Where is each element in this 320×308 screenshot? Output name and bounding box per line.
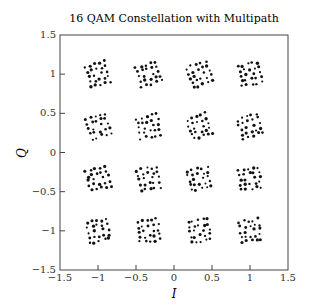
- symbol-point: [205, 239, 207, 241]
- symbol-point: [100, 186, 103, 189]
- symbol-point: [207, 81, 209, 83]
- symbol-point: [255, 83, 257, 85]
- symbol-point: [207, 166, 209, 168]
- symbol-point: [106, 134, 108, 136]
- symbol-point: [195, 63, 198, 66]
- x-axis: −1.5−1−0.500.511.5: [48, 265, 296, 283]
- symbol-point: [145, 67, 148, 70]
- symbol-point: [100, 71, 103, 74]
- symbol-point: [104, 128, 107, 131]
- symbol-point: [239, 70, 242, 73]
- symbol-point: [237, 120, 239, 122]
- symbol-point: [192, 81, 195, 84]
- symbol-point: [252, 124, 255, 127]
- symbol-point: [247, 136, 249, 138]
- symbol-point: [205, 129, 208, 132]
- symbol-point: [137, 221, 140, 224]
- symbol-point: [250, 61, 253, 64]
- symbol-point: [211, 79, 214, 82]
- symbol-point: [256, 116, 259, 119]
- symbol-point: [152, 73, 154, 75]
- symbol-point: [149, 61, 152, 64]
- symbol-point: [87, 185, 90, 188]
- symbol-point: [104, 81, 107, 84]
- symbol-point: [95, 219, 98, 222]
- y-tick-label: −1.5: [32, 264, 56, 275]
- symbol-point: [104, 238, 106, 240]
- symbol-point: [109, 180, 112, 183]
- symbol-point: [259, 127, 262, 130]
- symbol-point: [155, 80, 158, 83]
- symbol-point: [196, 79, 199, 82]
- symbol-point: [153, 187, 156, 190]
- symbol-point: [190, 168, 193, 171]
- x-tick-label: −1: [91, 272, 106, 283]
- symbol-point: [194, 225, 197, 228]
- symbol-point: [244, 79, 246, 81]
- symbol-point: [200, 168, 203, 171]
- symbol-point: [145, 65, 147, 67]
- symbol-point: [90, 169, 93, 172]
- symbol-point: [99, 167, 102, 170]
- symbol-point: [153, 240, 156, 243]
- symbol-point: [143, 177, 145, 179]
- symbol-point: [150, 119, 153, 122]
- symbol-point: [197, 224, 199, 226]
- symbol-point: [147, 225, 150, 228]
- symbol-point: [145, 240, 148, 243]
- symbol-point: [202, 134, 204, 136]
- symbol-point: [205, 217, 208, 220]
- symbol-point: [90, 116, 93, 119]
- symbol-point: [186, 170, 189, 173]
- symbol-point: [97, 240, 99, 242]
- symbol-point: [190, 117, 193, 120]
- symbol-point: [102, 176, 105, 179]
- symbol-point: [194, 131, 197, 134]
- symbol-point: [247, 62, 249, 64]
- symbol-point: [247, 220, 249, 222]
- symbol-point: [241, 134, 244, 137]
- symbol-point: [145, 121, 148, 124]
- symbol-point: [201, 130, 204, 133]
- scatter-points: [83, 59, 264, 245]
- symbol-point: [157, 128, 160, 131]
- symbol-point: [93, 62, 96, 65]
- symbol-point: [252, 72, 255, 75]
- symbol-point: [258, 227, 261, 230]
- symbol-point: [135, 119, 137, 121]
- symbol-point: [255, 185, 258, 188]
- symbol-point: [243, 178, 246, 181]
- symbol-point: [191, 71, 194, 74]
- symbol-point: [160, 187, 162, 189]
- symbol-point: [93, 236, 95, 238]
- symbol-point: [149, 234, 152, 237]
- symbol-point: [143, 78, 146, 81]
- symbol-point: [200, 241, 202, 243]
- symbol-point: [105, 218, 107, 220]
- symbol-point: [209, 70, 211, 72]
- symbol-point: [150, 218, 153, 221]
- symbol-point: [243, 231, 246, 234]
- symbol-point: [246, 115, 248, 117]
- symbol-point: [254, 68, 256, 70]
- symbol-point: [107, 122, 109, 124]
- symbol-point: [193, 230, 195, 232]
- symbol-point: [99, 84, 101, 86]
- symbol-point: [105, 186, 108, 189]
- symbol-point: [206, 223, 209, 226]
- x-tick-label: 0: [171, 272, 177, 283]
- symbol-point: [258, 181, 260, 183]
- symbol-point: [244, 73, 247, 76]
- symbol-point: [241, 122, 243, 124]
- symbol-point: [251, 220, 253, 222]
- y-tick-label: −0.5: [32, 186, 56, 197]
- symbol-point: [100, 220, 103, 223]
- symbol-point: [150, 66, 153, 69]
- symbol-point: [204, 117, 207, 120]
- symbol-point: [196, 85, 199, 88]
- symbol-point: [243, 219, 245, 221]
- symbol-point: [155, 66, 157, 68]
- symbol-point: [242, 173, 245, 176]
- symbol-point: [191, 122, 194, 125]
- symbol-point: [209, 237, 212, 240]
